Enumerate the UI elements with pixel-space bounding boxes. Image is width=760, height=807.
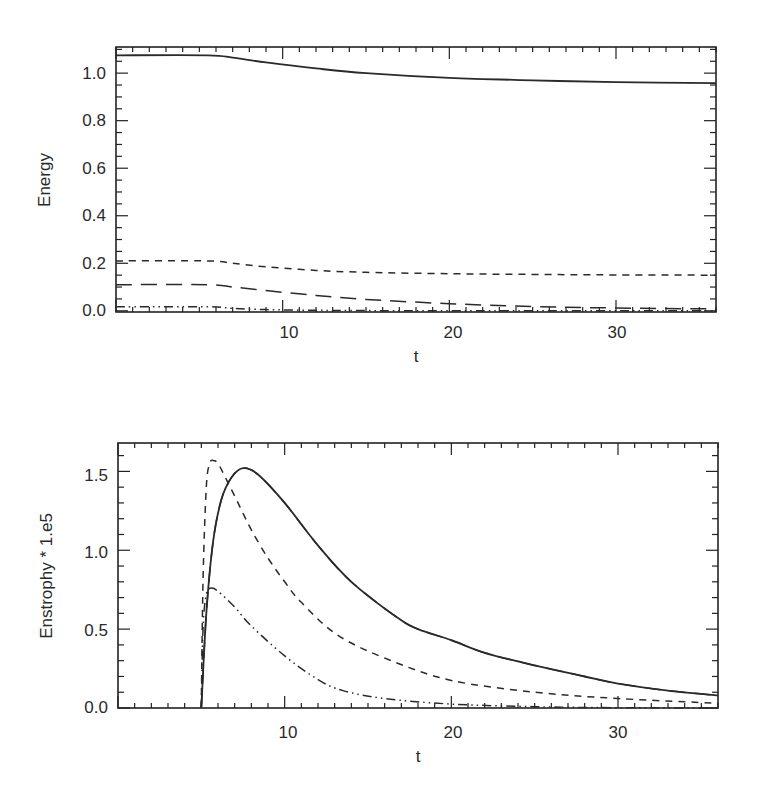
series-line-dash-dot-dot [201, 588, 718, 708]
energy-series [116, 55, 716, 311]
energy-plot-frame [116, 47, 716, 312]
enstrophy-y-axis-title: Enstrophy * 1.e5 [37, 513, 56, 639]
enstrophy-plot: 0.0 0.5 1.0 1.5 10 20 30 t Enstrophy * 1… [37, 443, 718, 766]
x-tick-label: 10 [280, 323, 299, 342]
x-tick-label: 20 [444, 323, 463, 342]
enstrophy-x-tick-labels: 10 20 30 [279, 723, 628, 742]
x-tick-label: 10 [279, 723, 298, 742]
x-tick-label: 30 [608, 323, 627, 342]
y-tick-label: 0.8 [82, 111, 106, 130]
enstrophy-plot-frame [118, 443, 718, 708]
y-tick-label: 1.0 [82, 64, 106, 83]
energy-x-axis-title: t [414, 347, 419, 366]
y-tick-label: 0.5 [84, 621, 108, 640]
series-line-long-dashed [116, 285, 716, 309]
y-tick-label: 1.0 [84, 543, 108, 562]
enstrophy-x-axis-title: t [416, 747, 421, 766]
x-tick-label: 30 [609, 723, 628, 742]
figure: 0.0 0.2 0.4 0.6 0.8 1.0 10 20 30 t Energ… [0, 0, 760, 807]
energy-plot: 0.0 0.2 0.4 0.6 0.8 1.0 10 20 30 t Energ… [35, 47, 716, 366]
energy-x-tick-labels: 10 20 30 [280, 323, 627, 342]
y-tick-label: 0.6 [82, 159, 106, 178]
series-line-long-dashed [201, 468, 718, 708]
y-tick-label: 0.0 [82, 301, 106, 320]
series-line-solid [201, 468, 718, 708]
energy-y-axis-title: Energy [35, 153, 54, 207]
x-tick-label: 20 [444, 723, 463, 742]
enstrophy-ticks [118, 443, 718, 708]
y-tick-label: 0.4 [82, 206, 106, 225]
enstrophy-y-tick-labels: 0.0 0.5 1.0 1.5 [84, 466, 108, 717]
y-tick-label: 0.2 [82, 254, 106, 273]
enstrophy-series [201, 460, 718, 708]
energy-ticks [116, 47, 716, 312]
y-tick-label: 0.0 [84, 698, 108, 717]
y-tick-label: 1.5 [84, 466, 108, 485]
energy-y-tick-labels: 0.0 0.2 0.4 0.6 0.8 1.0 [82, 64, 106, 320]
series-line-solid [116, 55, 716, 83]
series-line-short-dashed [116, 261, 716, 275]
